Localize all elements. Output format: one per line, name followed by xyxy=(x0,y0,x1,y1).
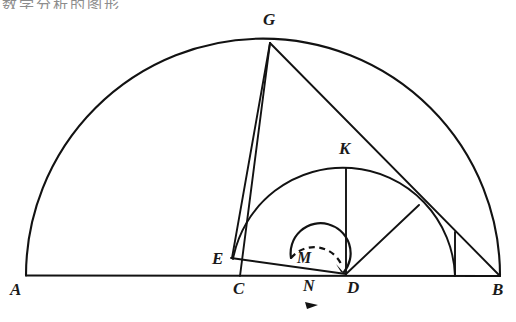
point-label-E: E xyxy=(212,250,223,267)
segment-gc-altitude xyxy=(240,43,270,276)
segment-ge xyxy=(232,43,270,258)
segment-d-to-intersection xyxy=(346,205,419,274)
segment-ed xyxy=(231,258,346,274)
point-label-N: N xyxy=(303,278,315,294)
point-label-D: D xyxy=(347,279,359,296)
point-label-C: C xyxy=(233,280,244,297)
large-semicircle-arc xyxy=(26,39,500,276)
point-label-M: M xyxy=(297,250,311,266)
diameter-ab-line xyxy=(26,276,500,277)
point-label-B: B xyxy=(492,281,503,298)
point-label-G: G xyxy=(263,11,275,28)
point-label-A: A xyxy=(10,281,21,298)
point-label-K: K xyxy=(339,140,350,157)
circle-direction-arrowhead-icon xyxy=(305,302,318,309)
geometry-figure: 数学分析的图形 A B G K E C xyxy=(0,0,516,322)
segment-gb xyxy=(270,43,500,276)
diagram-canvas xyxy=(0,0,516,322)
inner-semicircle-arc xyxy=(233,168,455,276)
